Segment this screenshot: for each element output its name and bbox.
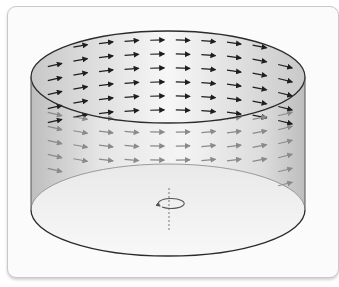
cylinder-diagram [0,0,323,287]
